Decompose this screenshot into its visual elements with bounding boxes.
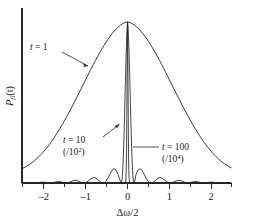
annotation-t100-value: = 100: [165, 142, 190, 152]
y-axis-title: Pfi(t): [4, 85, 16, 107]
x-tick-label: 1: [167, 191, 172, 202]
x-axis-ticks: [22, 183, 231, 189]
annotation-t100-scale-open: (/10: [162, 154, 178, 165]
annotation-t100-line1: t = 100: [162, 142, 189, 152]
x-axis-tick-labels: –2 –1 0 1 2: [38, 191, 214, 202]
annotation-t1-value: = 1: [33, 42, 48, 52]
annotation-t10: t = 10 (/102): [63, 135, 85, 158]
x-tick-label: –1: [79, 191, 91, 202]
x-tick-label: –2: [38, 191, 50, 202]
leader-arrowhead-t1: [83, 63, 88, 67]
x-axis-title: Δω/2: [117, 207, 139, 218]
annotation-t10-scale-open: (/10: [63, 147, 79, 158]
annotation-t100: t = 100 (/104): [162, 142, 189, 165]
figure-container: –2 –1 0 1 2 Δω/2 Pfi(t): [0, 0, 253, 224]
x-tick-label: 2: [208, 191, 213, 202]
x-tick-label: 0: [125, 191, 130, 202]
sinc-plot-svg: –2 –1 0 1 2 Δω/2 Pfi(t): [0, 0, 253, 224]
annotation-t100-scale-close: ): [181, 154, 184, 165]
annotation-t1: t = 1: [30, 42, 48, 52]
annotation-t10-scale-close: ): [82, 147, 85, 158]
annotation-t10-line2: (/102): [63, 146, 85, 159]
annotation-leaders: [62, 52, 159, 147]
annotation-t100-line2: (/104): [162, 153, 184, 166]
annotation-t10-value: = 10: [66, 135, 86, 145]
annotation-t10-line1: t = 10: [63, 135, 85, 145]
y-axis-title-tail: (t): [4, 85, 16, 95]
svg-text:Pfi(t): Pfi(t): [4, 85, 16, 107]
